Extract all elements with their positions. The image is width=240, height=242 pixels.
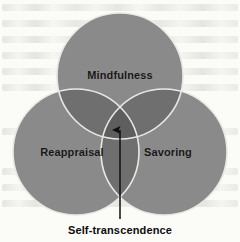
circle-label-mindfulness: Mindfulness [0, 69, 240, 81]
venn-diagram-graphic [0, 0, 240, 242]
figure-caption-self-transcendence: Self-transcendence [0, 224, 240, 236]
venn-diagram-figure: Mindfulness Reappraisal Savoring Self-tr… [0, 0, 240, 242]
circle-label-savoring: Savoring [110, 146, 226, 158]
